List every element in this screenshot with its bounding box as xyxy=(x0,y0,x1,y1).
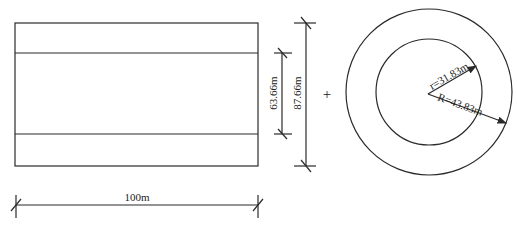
outer-height-dimension: 87.66m xyxy=(291,17,316,172)
inner-radius-label: r=31.83m xyxy=(427,60,471,92)
outer-rectangle xyxy=(15,23,258,166)
ring-view: r=31.83m R=43.83m xyxy=(346,9,512,175)
inner-height-dimension: 63.66m xyxy=(267,48,292,139)
outer-height-label: 87.66m xyxy=(291,76,303,110)
plus-operator: + xyxy=(323,86,331,102)
rectangle-view xyxy=(15,23,258,166)
outer-circle xyxy=(346,9,512,175)
diagram-canvas: 100m 63.66m 87.66m + r=31.83m R=43.83m xyxy=(0,0,517,232)
width-label: 100m xyxy=(124,191,150,203)
width-dimension: 100m xyxy=(11,191,263,218)
inner-height-label: 63.66m xyxy=(267,76,279,110)
outer-radius-label: R=43.83m xyxy=(436,91,485,118)
inner-circle xyxy=(376,39,482,145)
